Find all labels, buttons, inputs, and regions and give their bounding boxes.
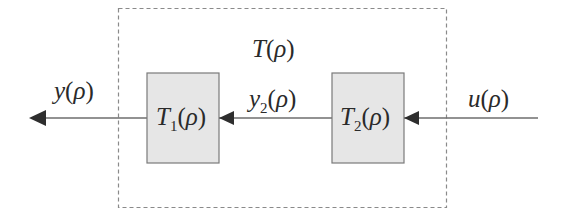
output-signal-arg: ρ [73, 77, 85, 104]
arrowhead-into-t1-icon [219, 111, 234, 125]
output-signal-label: y(ρ) [54, 78, 94, 103]
arrowhead-into-t2-icon [404, 111, 419, 125]
intermediate-signal-sub: 2 [260, 100, 268, 116]
system-label: T(ρ) [252, 36, 295, 61]
paren-close: ) [198, 103, 206, 130]
input-signal-arg: ρ [489, 85, 501, 112]
intermediate-signal-label: y2(ρ) [249, 86, 296, 111]
system-label-base: T [252, 35, 266, 62]
paren-open: ( [268, 85, 276, 112]
arrowhead-output-icon [29, 110, 46, 126]
paren-open: ( [361, 103, 369, 130]
block-t2-sub: 2 [354, 118, 362, 134]
output-signal-base: y [54, 77, 65, 104]
paren-open: ( [266, 35, 274, 62]
input-signal-label: u(ρ) [468, 86, 509, 111]
paren-close: ) [288, 85, 296, 112]
intermediate-signal-arg: ρ [276, 85, 288, 112]
paren-close: ) [85, 77, 93, 104]
intermediate-signal-base: y [249, 85, 260, 112]
paren-close: ) [382, 103, 390, 130]
system-label-arg: ρ [274, 35, 286, 62]
input-signal-base: u [468, 85, 481, 112]
block-t2-base: T [340, 103, 354, 130]
block-t2-label: T2(ρ) [340, 104, 390, 129]
paren-open: ( [481, 85, 489, 112]
block-t1-base: T [156, 103, 170, 130]
paren-open: ( [177, 103, 185, 130]
block-t1-arg: ρ [186, 103, 198, 130]
paren-close: ) [286, 35, 294, 62]
block-t1-sub: 1 [170, 118, 178, 134]
block-t1-label: T1(ρ) [156, 104, 206, 129]
paren-close: ) [501, 85, 509, 112]
block-t2-arg: ρ [370, 103, 382, 130]
